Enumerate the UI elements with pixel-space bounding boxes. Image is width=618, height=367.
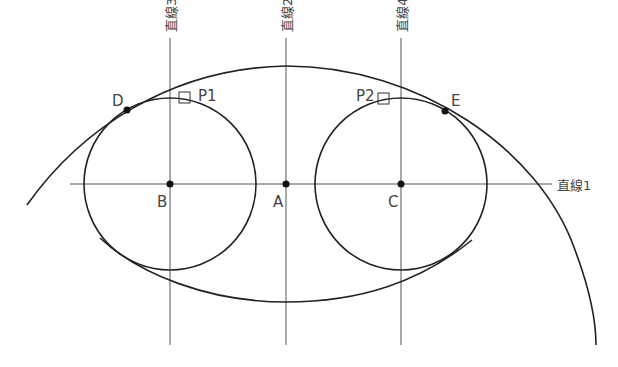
p1-marker [179,92,190,103]
line-4-label: 直線4 [395,0,410,32]
geometry-diagram: 直線3 直線2 直線4 直線1 D P1 P2 E B A C [0,0,618,367]
line-1-label: 直線1 [557,178,591,193]
point-a-label: A [273,193,284,211]
point-a [283,181,290,188]
line-2-label: 直線2 [280,0,295,32]
point-d-label: D [112,92,124,110]
point-c [398,181,405,188]
point-e-label: E [451,92,460,110]
point-b-label: B [157,193,167,211]
point-d [124,107,131,114]
line-3-label: 直線3 [164,0,179,32]
point-p2-label: P2 [356,87,375,105]
point-c-label: C [388,193,398,211]
point-b [167,181,174,188]
point-p1-label: P1 [198,87,217,105]
point-e [442,108,449,115]
